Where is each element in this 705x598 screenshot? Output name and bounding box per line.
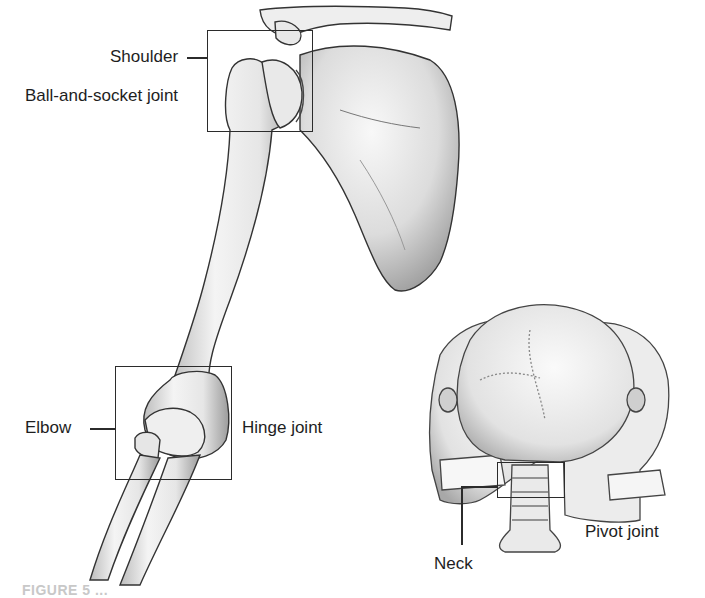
shoulder-leader-line bbox=[187, 57, 207, 59]
elbow-label: Elbow bbox=[25, 418, 71, 438]
neck-label: Neck bbox=[434, 554, 473, 574]
pivot-joint-label: Pivot joint bbox=[585, 522, 659, 542]
shoulder-highlight-box bbox=[207, 30, 313, 132]
neck-leader-vertical bbox=[461, 486, 463, 545]
neck-highlight-box bbox=[497, 462, 565, 498]
elbow-leader-line bbox=[90, 428, 115, 430]
figure-caption-clipped: FIGURE 5 ... bbox=[22, 582, 108, 598]
elbow-highlight-box bbox=[115, 366, 232, 480]
hinge-joint-label: Hinge joint bbox=[242, 418, 322, 438]
neck-leader-horizontal bbox=[461, 486, 497, 488]
skull-illustration bbox=[430, 305, 669, 552]
ball-and-socket-joint-label: Ball-and-socket joint bbox=[25, 86, 178, 106]
shoulder-label: Shoulder bbox=[110, 47, 178, 67]
